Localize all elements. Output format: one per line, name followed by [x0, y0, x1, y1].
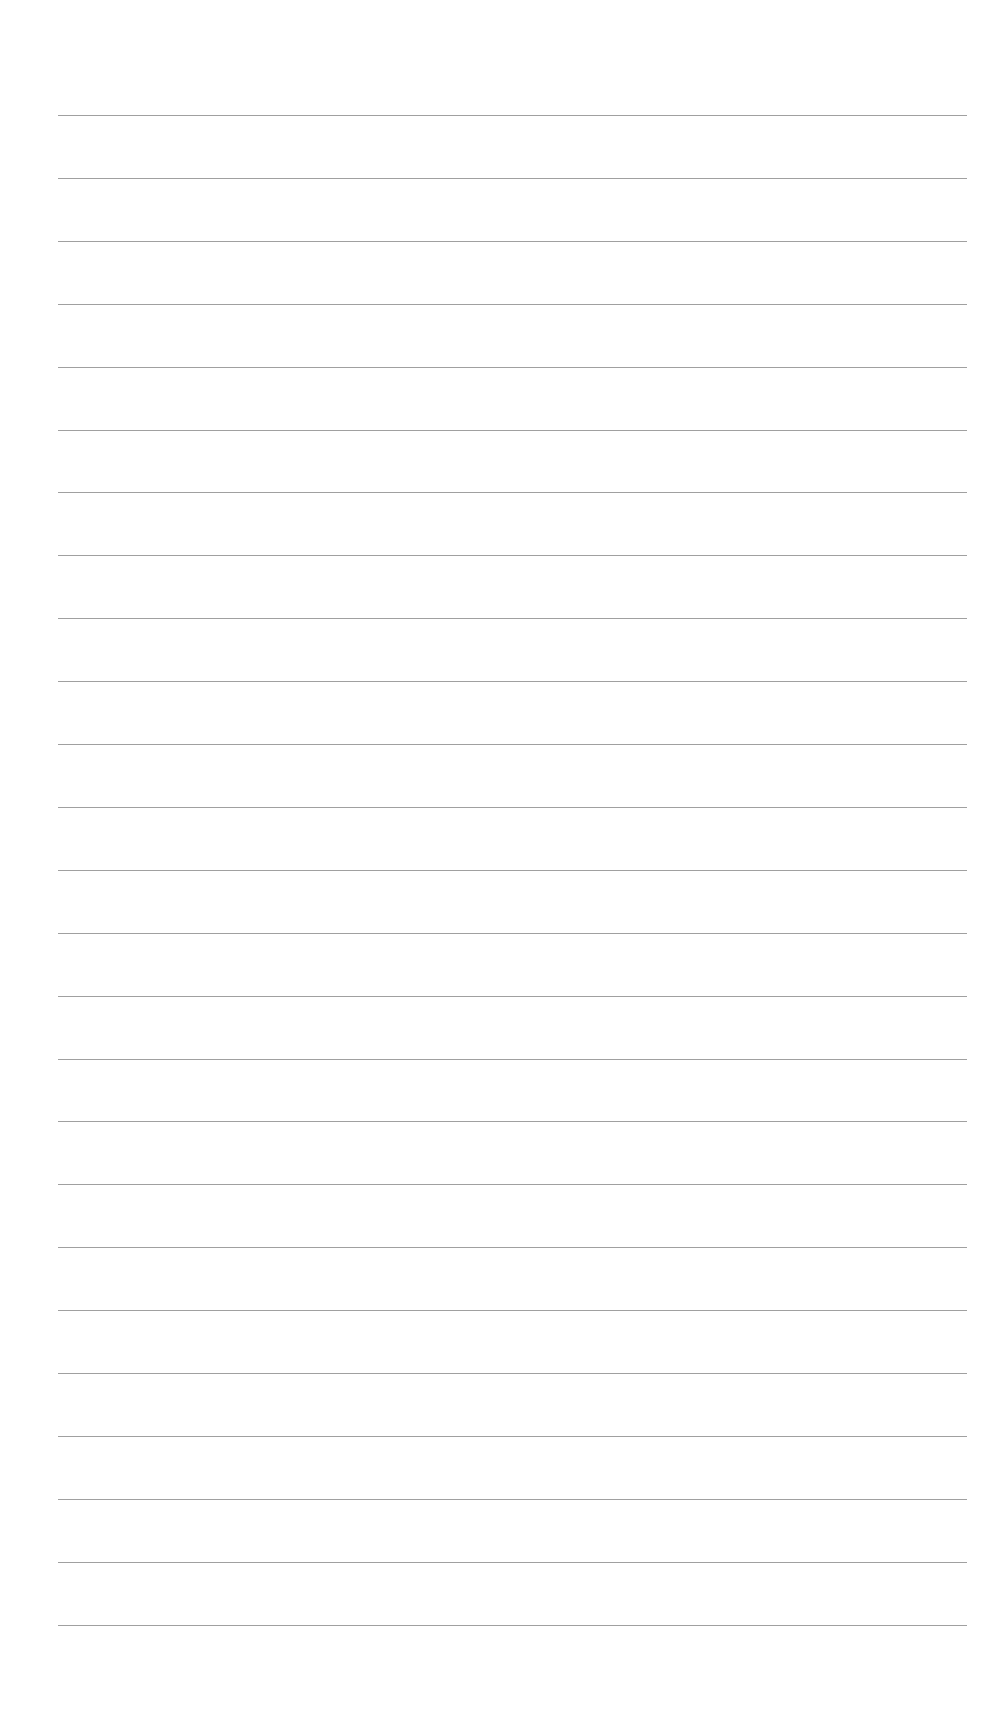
ruled-line	[58, 1436, 967, 1437]
ruled-line	[58, 1499, 967, 1500]
ruled-line	[58, 1562, 967, 1563]
ruled-line	[58, 1625, 967, 1626]
ruled-line	[58, 933, 967, 934]
ruled-line	[58, 492, 967, 493]
ruled-line	[58, 870, 967, 871]
ruled-line	[58, 178, 967, 179]
ruled-line	[58, 304, 967, 305]
ruled-line	[58, 115, 967, 116]
ruled-line	[58, 1247, 967, 1248]
ruled-line	[58, 744, 967, 745]
ruled-line	[58, 555, 967, 556]
ruled-line	[58, 1310, 967, 1311]
ruled-paper-sheet	[0, 0, 989, 1725]
ruled-line	[58, 430, 967, 431]
ruled-line	[58, 1121, 967, 1122]
ruled-line	[58, 1184, 967, 1185]
ruled-line	[58, 1373, 967, 1374]
ruled-line	[58, 241, 967, 242]
ruled-line	[58, 681, 967, 682]
ruled-line	[58, 1059, 967, 1060]
ruled-line	[58, 996, 967, 997]
ruled-line	[58, 367, 967, 368]
ruled-line	[58, 618, 967, 619]
ruled-line	[58, 807, 967, 808]
